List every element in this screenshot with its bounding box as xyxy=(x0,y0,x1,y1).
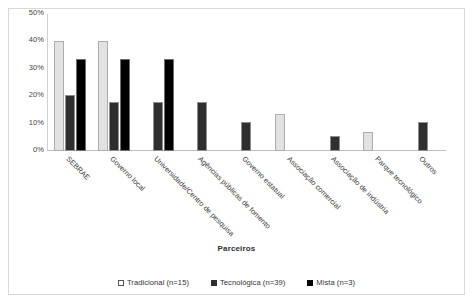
x-axis-tick-label: SEBRAE xyxy=(64,155,91,182)
bar[interactable] xyxy=(76,59,86,151)
legend-label: Tradicional (n=15) xyxy=(127,278,189,287)
bar[interactable] xyxy=(109,102,119,151)
bar[interactable] xyxy=(275,114,285,151)
y-axis-tick-label: 50% xyxy=(10,9,44,17)
legend-item[interactable]: Mista (n=3) xyxy=(307,278,355,287)
bar-group xyxy=(136,14,180,151)
y-axis-tick-label: 30% xyxy=(10,64,44,72)
bar[interactable] xyxy=(363,132,373,151)
bar[interactable] xyxy=(98,41,108,151)
bar-group xyxy=(401,14,445,151)
bar-group xyxy=(224,14,268,151)
bar[interactable] xyxy=(65,95,75,151)
y-axis-tick-label: 20% xyxy=(10,91,44,99)
y-axis-tick-label: 40% xyxy=(10,36,44,44)
bar-group xyxy=(48,14,92,151)
bar-group xyxy=(180,14,224,151)
x-axis-tick-cell: Universidade/Centro de pesquisa xyxy=(136,151,180,241)
bar[interactable] xyxy=(54,41,64,151)
y-axis-tick-label: 10% xyxy=(10,119,44,127)
bar-group xyxy=(357,14,401,151)
chart-figure: 0%10%20%30%40%50% SEBRAEGoverno localUni… xyxy=(0,0,473,303)
chart-legend: Tradicional (n=15)Tecnológica (n=39)Mist… xyxy=(0,278,473,287)
bar[interactable] xyxy=(197,102,207,151)
open-square-marker xyxy=(118,280,124,286)
x-axis-title: Parceiros xyxy=(0,244,473,253)
y-axis-tick-labels: 0%10%20%30%40%50% xyxy=(6,0,44,303)
filled-square-marker xyxy=(307,280,313,286)
bar[interactable] xyxy=(418,122,428,151)
bar-group xyxy=(269,14,313,151)
x-axis-tick-cell: Associação de indústria xyxy=(313,151,357,241)
x-axis-tick-labels: SEBRAEGoverno localUniversidade/Centro d… xyxy=(48,151,445,241)
legend-label: Tecnológica (n=39) xyxy=(220,278,285,287)
x-axis-tick-label: Outros xyxy=(417,155,439,177)
legend-item[interactable]: Tradicional (n=15) xyxy=(118,278,189,287)
bar[interactable] xyxy=(241,122,251,151)
bar-groups xyxy=(48,14,445,151)
x-axis-tick-cell: Parque tecnológico xyxy=(357,151,401,241)
x-axis-tick-cell: Governo local xyxy=(92,151,136,241)
bar[interactable] xyxy=(120,59,130,151)
filled-square-marker xyxy=(211,280,217,286)
x-axis-tick-cell: Agências públicas de fomento xyxy=(180,151,224,241)
bar-group xyxy=(92,14,136,151)
legend-item[interactable]: Tecnológica (n=39) xyxy=(211,278,285,287)
x-axis-tick-cell: Governo estatual xyxy=(224,151,268,241)
x-axis-tick-cell: Associação comercial xyxy=(269,151,313,241)
bar-group xyxy=(313,14,357,151)
legend-label: Mista (n=3) xyxy=(316,278,355,287)
x-axis-tick-cell: SEBRAE xyxy=(48,151,92,241)
x-axis-tick-cell: Outros xyxy=(401,151,445,241)
bar[interactable] xyxy=(164,59,174,151)
bar[interactable] xyxy=(153,102,163,151)
bar[interactable] xyxy=(330,136,340,151)
y-axis-tick-label: 0% xyxy=(10,146,44,154)
